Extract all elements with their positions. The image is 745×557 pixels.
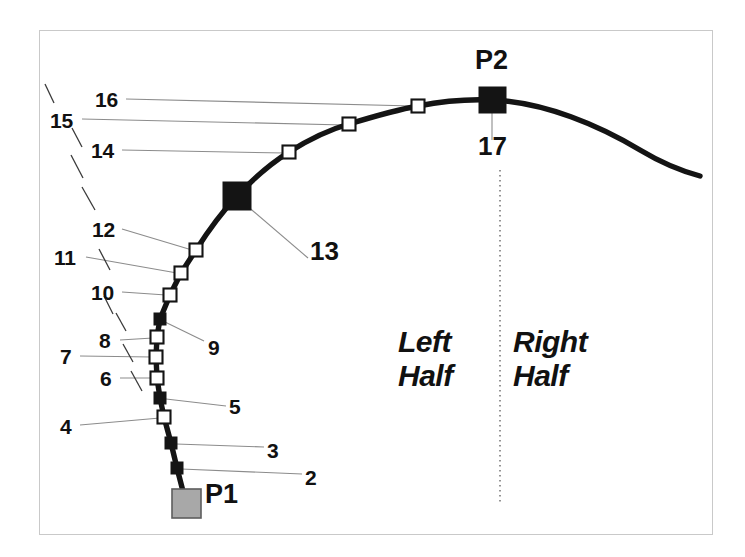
leader-9 (165, 322, 204, 341)
marker-16 (412, 100, 425, 113)
label-5: 5 (229, 396, 240, 417)
marker-3 (165, 437, 177, 449)
label-14: 14 (91, 140, 114, 161)
curve-diagram-graphics (0, 0, 745, 557)
marker-9 (154, 313, 166, 325)
marker-8 (151, 331, 164, 344)
tick-b (72, 128, 82, 147)
label-4: 4 (60, 416, 71, 437)
marker-10 (164, 289, 177, 302)
solid-markers (154, 87, 506, 474)
label-16: 16 (95, 89, 118, 110)
label-2: 2 (305, 467, 316, 488)
diagram-canvas: 16 15 14 12 11 10 8 7 6 4 9 5 3 2 13 17 … (0, 0, 745, 557)
leader-12 (122, 229, 192, 250)
leader-14 (122, 150, 285, 153)
label-17: 17 (478, 133, 507, 159)
label-7: 7 (60, 346, 71, 367)
leader-10 (122, 292, 166, 295)
label-10: 10 (91, 282, 114, 303)
label-3: 3 (267, 440, 278, 461)
marker-12 (190, 244, 203, 257)
leader-7 (80, 356, 152, 357)
tick-a (45, 84, 54, 103)
leader-5 (166, 399, 226, 406)
marker-p1 (172, 489, 201, 518)
leader-15 (82, 119, 345, 125)
tick-d (82, 187, 95, 210)
marker-4 (158, 411, 171, 424)
marker-15 (343, 118, 356, 131)
leader-13 (246, 205, 308, 258)
marker-6 (151, 372, 164, 385)
label-p1: P1 (205, 481, 238, 508)
tick-c (71, 155, 83, 178)
tick-g (116, 313, 126, 331)
main-curve (156, 100, 700, 503)
right-half-label: Right Half (513, 325, 587, 392)
marker-7 (150, 351, 163, 364)
marker-5 (154, 392, 166, 404)
marker-13 (223, 182, 251, 210)
leader-2 (181, 469, 302, 474)
left-half-label: Left Half (398, 325, 453, 392)
leader-11 (86, 257, 177, 273)
tick-h (123, 344, 133, 362)
label-13: 13 (310, 238, 339, 264)
label-15: 15 (50, 110, 73, 131)
label-9: 9 (208, 337, 219, 358)
label-11: 11 (54, 247, 76, 268)
leader-16 (126, 99, 414, 106)
marker-2 (171, 462, 183, 474)
marker-17-p2 (479, 87, 506, 113)
tick-i (131, 371, 142, 391)
label-12: 12 (92, 219, 115, 240)
marker-14 (283, 146, 296, 159)
leader-8 (120, 338, 153, 340)
label-6: 6 (100, 368, 111, 389)
label-8: 8 (99, 330, 110, 351)
leader-3 (176, 444, 264, 447)
marker-11 (175, 267, 188, 280)
label-p2: P2 (475, 47, 508, 74)
leader-4 (80, 418, 160, 425)
